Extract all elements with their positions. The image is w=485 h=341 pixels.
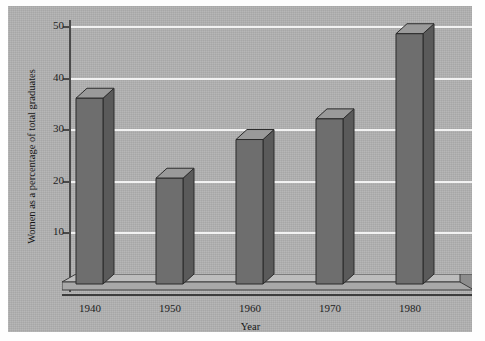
figure: 50 40 30 20 10 Women as a percentage of … (0, 0, 485, 341)
x-tick-label-1970: 1970 (300, 302, 360, 314)
bar-front-1970 (316, 119, 343, 284)
bar-front-1940 (76, 98, 103, 284)
bar-side-1970 (343, 109, 354, 284)
plot-panel: 50 40 30 20 10 Women as a percentage of … (8, 6, 472, 332)
bar-side-1980 (423, 24, 434, 284)
bar-side-1950 (183, 168, 194, 284)
x-axis-line (62, 294, 472, 296)
x-tick-label-1950: 1950 (140, 302, 200, 314)
bar-side-1960 (263, 130, 274, 284)
bar-1950[interactable] (156, 168, 194, 284)
bar-1970[interactable] (316, 109, 354, 284)
x-tick-label-1940: 1940 (60, 302, 120, 314)
bar-1940[interactable] (76, 88, 114, 284)
bar-front-1980 (396, 34, 423, 284)
bar-1960[interactable] (236, 130, 274, 284)
bar-1980[interactable] (396, 24, 434, 284)
bar-front-1960 (236, 140, 263, 284)
x-tick-label-1980: 1980 (380, 302, 440, 314)
bar-front-1950 (156, 178, 183, 284)
bar-side-1940 (103, 88, 114, 284)
x-tick-label-1960: 1960 (220, 302, 280, 314)
bar-group (8, 6, 472, 332)
x-axis-title: Year (8, 321, 472, 332)
